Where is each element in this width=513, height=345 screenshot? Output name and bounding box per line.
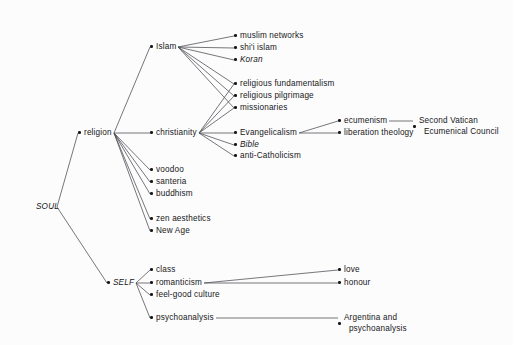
node-bullet-icon <box>78 131 81 134</box>
node-bullet-icon <box>107 281 110 284</box>
node-label: psychoanalysis <box>150 313 214 323</box>
node-label: santeria <box>150 177 186 187</box>
node-label: religious fundamentalism <box>234 79 335 89</box>
node-honour: honour <box>338 278 370 288</box>
node-bullet-icon <box>150 316 153 319</box>
node-bullet-icon <box>338 119 341 122</box>
node-label: romanticism <box>150 278 202 288</box>
node-label: missionaries <box>234 103 287 113</box>
edge-islam-to-koran <box>178 47 234 60</box>
node-label: christianity <box>150 128 197 138</box>
node-missionaries: missionaries <box>234 103 287 113</box>
node-islam: Islam <box>150 42 176 52</box>
node-label: SELF <box>107 278 134 288</box>
node-label: class <box>150 265 175 275</box>
node-bullet-icon <box>338 268 341 271</box>
edge-christianity-to-bible <box>199 133 234 145</box>
edge-religion-to-zen <box>114 133 150 219</box>
node-bullet-icon <box>150 293 153 296</box>
node-liberation: liberation theology <box>338 128 414 138</box>
edge-religion-to-islam <box>114 47 150 133</box>
node-bullet-icon <box>338 131 341 134</box>
node-religion: religion <box>78 128 112 138</box>
node-bullet-icon <box>234 82 237 85</box>
edge-religion-to-newage <box>114 133 150 231</box>
node-self: SELF <box>107 278 134 288</box>
node-label: muslim networks <box>234 31 303 41</box>
node-pilgrimage: religious pilgrimage <box>234 91 314 101</box>
node-bullet-icon <box>150 131 153 134</box>
edge-islam-to-fundamentalism <box>178 47 234 84</box>
node-label: religion <box>78 128 112 138</box>
node-anticatholicism: anti-Catholicism <box>234 151 301 161</box>
node-buddhism: buddhism <box>150 189 193 199</box>
node-label: Evangelicalism <box>234 128 297 138</box>
node-feelgood: feel-good culture <box>150 290 220 300</box>
node-label: shi'i islam <box>234 43 277 53</box>
node-label: zen aesthetics <box>150 214 211 224</box>
node-bullet-icon <box>150 180 153 183</box>
node-bullet-icon <box>234 34 237 37</box>
node-label: New Age <box>150 226 190 236</box>
node-fundamentalism: religious fundamentalism <box>234 79 335 89</box>
node-bullet-icon <box>338 281 341 284</box>
edge-islam-to-muslimnetworks <box>178 36 234 47</box>
edge-christianity-to-fundamentalism <box>199 84 234 133</box>
edge-soul-to-religion <box>57 133 78 207</box>
node-bullet-icon <box>234 106 237 109</box>
node-bullet-icon <box>150 281 153 284</box>
node-label: buddhism <box>150 189 193 199</box>
node-vatican: Second Vatican Ecumenical Council <box>413 116 499 137</box>
node-bullet-icon <box>234 58 237 61</box>
node-bullet-icon <box>234 94 237 97</box>
node-label: ecumenism <box>338 116 387 126</box>
node-label: religious pilgrimage <box>234 91 314 101</box>
node-label: liberation theology <box>338 128 414 138</box>
node-shiiislam: shi'i islam <box>234 43 277 53</box>
node-label: love <box>338 265 360 275</box>
edge-christianity-to-pilgrimage <box>199 96 234 133</box>
node-label: Islam <box>150 42 176 52</box>
edge-self-to-psychoanalysis <box>136 283 150 318</box>
edge-religion-to-voodoo <box>114 133 150 170</box>
edge-soul-to-self <box>57 207 107 283</box>
node-bullet-icon <box>234 131 237 134</box>
node-bullet-icon <box>234 154 237 157</box>
node-bullet-icon <box>150 217 153 220</box>
node-label: Second Vatican Ecumenical Council <box>413 116 499 137</box>
node-muslimnetworks: muslim networks <box>234 31 303 41</box>
node-bible: Bible <box>234 140 259 150</box>
node-label: Koran <box>234 55 263 65</box>
node-newage: New Age <box>150 226 190 236</box>
node-bullet-icon <box>150 168 153 171</box>
edge-religion-to-santeria <box>114 133 150 182</box>
node-bullet-icon <box>150 45 153 48</box>
node-label: Argentina and psychoanalysis <box>338 313 407 334</box>
node-santeria: santeria <box>150 177 186 187</box>
node-christianity: christianity <box>150 128 197 138</box>
node-koran: Koran <box>234 55 263 65</box>
node-bullet-icon <box>150 192 153 195</box>
edge-christianity-to-missionaries <box>199 108 234 133</box>
edge-religion-to-buddhism <box>114 133 150 194</box>
node-soul: SOUL <box>30 202 59 212</box>
node-label: Bible <box>234 140 259 150</box>
node-label: SOUL <box>30 202 59 212</box>
node-argentina: Argentina and psychoanalysis <box>338 313 407 334</box>
node-label: anti-Catholicism <box>234 151 301 161</box>
node-bullet-icon <box>234 143 237 146</box>
node-voodoo: voodoo <box>150 165 184 175</box>
edge-islam-to-shiiislam <box>178 47 234 48</box>
node-label: voodoo <box>150 165 184 175</box>
node-bullet-icon <box>150 229 153 232</box>
node-bullet-icon <box>413 125 416 128</box>
node-class: class <box>150 265 175 275</box>
node-label: honour <box>338 278 370 288</box>
node-psychoanalysis: psychoanalysis <box>150 313 214 323</box>
node-bullet-icon <box>150 268 153 271</box>
node-bullet-icon <box>338 322 341 325</box>
edge-self-to-feelgood <box>136 283 150 295</box>
edge-evangelicalism-to-ecumenism <box>299 121 338 133</box>
node-label: feel-good culture <box>150 290 220 300</box>
edge-islam-to-missionaries <box>178 47 234 108</box>
